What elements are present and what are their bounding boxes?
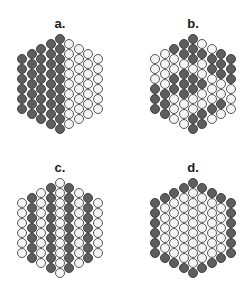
light-disc (169, 228, 179, 238)
light-disc (36, 258, 46, 268)
dark-disc (197, 183, 207, 193)
dark-disc (226, 248, 236, 258)
light-disc (197, 69, 207, 79)
dark-disc (216, 193, 226, 203)
dark-disc (169, 258, 179, 268)
light-disc (64, 119, 74, 129)
light-disc (93, 228, 103, 238)
dark-disc (226, 74, 236, 84)
dark-disc (197, 263, 207, 273)
light-disc (197, 39, 207, 49)
light-disc (64, 109, 74, 119)
dark-disc (169, 188, 179, 198)
dark-disc (36, 114, 46, 124)
light-disc (17, 208, 27, 218)
dark-disc (17, 74, 27, 84)
dark-disc (226, 64, 236, 74)
dark-disc (17, 84, 27, 94)
light-disc (169, 198, 179, 208)
light-disc (197, 213, 207, 223)
dark-disc (216, 253, 226, 263)
light-disc (93, 198, 103, 208)
light-disc (216, 89, 226, 99)
dark-disc (226, 238, 236, 248)
dark-disc (17, 104, 27, 114)
light-disc (93, 74, 103, 84)
light-disc (83, 99, 93, 109)
light-disc (150, 74, 160, 84)
dark-disc (216, 59, 226, 69)
light-disc (36, 218, 46, 228)
light-disc (93, 64, 103, 74)
light-disc (17, 198, 27, 208)
light-disc (17, 248, 27, 258)
dark-disc (64, 223, 74, 233)
dark-disc (36, 84, 46, 94)
light-disc (216, 243, 226, 253)
dark-disc (169, 44, 179, 54)
light-disc (169, 238, 179, 248)
dark-disc (36, 54, 46, 64)
dark-disc (226, 198, 236, 208)
light-disc (17, 218, 27, 228)
light-disc (64, 79, 74, 89)
dark-disc (150, 94, 160, 104)
light-disc (93, 218, 103, 228)
light-disc (169, 64, 179, 74)
light-disc (169, 208, 179, 218)
light-disc (36, 228, 46, 238)
dark-disc (83, 243, 93, 253)
dark-disc (169, 74, 179, 84)
dark-disc (64, 233, 74, 243)
light-disc (64, 69, 74, 79)
dark-disc (64, 203, 74, 213)
light-disc (197, 243, 207, 253)
light-disc (226, 94, 236, 104)
dark-disc (64, 183, 74, 193)
light-disc (36, 188, 46, 198)
dark-disc (83, 213, 93, 223)
dark-disc (64, 243, 74, 253)
light-disc (36, 208, 46, 218)
dark-disc (226, 208, 236, 218)
dark-disc (197, 109, 207, 119)
light-disc (93, 54, 103, 64)
light-disc (64, 39, 74, 49)
light-disc (216, 223, 226, 233)
panel-a-label: a. (55, 17, 66, 30)
dark-disc (83, 233, 93, 243)
dark-disc (83, 253, 93, 263)
light-disc (169, 218, 179, 228)
dark-disc (83, 223, 93, 233)
panel-d-label: d. (187, 161, 199, 174)
dark-disc (150, 228, 160, 238)
light-disc (17, 228, 27, 238)
light-disc (169, 114, 179, 124)
light-disc (36, 238, 46, 248)
light-disc (216, 203, 226, 213)
light-disc (150, 64, 160, 74)
light-disc (36, 198, 46, 208)
light-disc (64, 59, 74, 69)
dark-disc (197, 119, 207, 129)
light-disc (93, 248, 103, 258)
dark-disc (17, 64, 27, 74)
dark-disc (216, 49, 226, 59)
light-disc (17, 238, 27, 248)
dark-disc (226, 228, 236, 238)
dark-disc (150, 104, 160, 114)
panel-c-label: c. (55, 161, 66, 174)
dark-disc (36, 64, 46, 74)
dark-disc (216, 69, 226, 79)
light-disc (169, 248, 179, 258)
dark-disc (169, 84, 179, 94)
light-disc (226, 84, 236, 94)
light-disc (93, 208, 103, 218)
light-disc (197, 203, 207, 213)
light-disc (197, 223, 207, 233)
dark-disc (64, 263, 74, 273)
light-disc (216, 79, 226, 89)
light-disc (216, 233, 226, 243)
dark-disc (83, 203, 93, 213)
light-disc (83, 109, 93, 119)
